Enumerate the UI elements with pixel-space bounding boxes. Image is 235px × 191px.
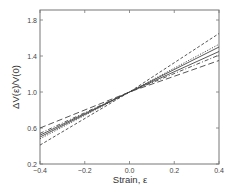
- x-tick-label: −0.4: [33, 167, 47, 174]
- y-tick-label: 1.4: [27, 53, 37, 60]
- x-tick-label: 0.0: [125, 167, 135, 174]
- x-tick-label: 0.2: [169, 167, 179, 174]
- y-axis-label: ΔV(ε)/V(0): [10, 65, 21, 109]
- x-tick-label: −0.2: [78, 167, 92, 174]
- x-tick-label: 0.4: [214, 167, 224, 174]
- y-tick-label: 1.0: [27, 89, 37, 96]
- plot-frame: [40, 10, 219, 164]
- y-tick-label: 0.6: [27, 125, 37, 132]
- y-tick-label: 1.8: [27, 17, 37, 24]
- line-chart: −0.4−0.20.00.20.4 0.20.61.01.41.8 Strain…: [0, 0, 235, 191]
- x-axis-label: Strain, ε: [113, 174, 148, 185]
- y-tick-labels: 0.20.61.01.41.8: [27, 17, 37, 168]
- x-tick-labels: −0.4−0.20.00.20.4: [33, 167, 224, 174]
- y-tick-label: 0.2: [27, 161, 37, 168]
